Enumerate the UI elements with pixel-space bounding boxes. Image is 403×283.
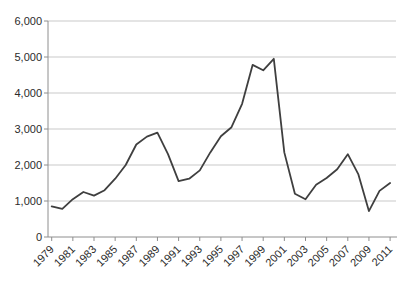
y-axis-label: 3,000 <box>14 123 42 135</box>
y-axis-label: 6,000 <box>14 15 42 27</box>
x-axis-label: 1981 <box>51 243 77 269</box>
y-axis-label: 4,000 <box>14 87 42 99</box>
y-axis-label: 2,000 <box>14 159 42 171</box>
x-axis-label: 2001 <box>263 243 289 269</box>
x-axis-label: 1989 <box>136 243 162 269</box>
x-axis-label: 2011 <box>369 243 394 268</box>
x-axis-label: 1979 <box>30 243 56 269</box>
x-axis-label: 2003 <box>284 243 310 269</box>
x-axis-label: 1991 <box>157 243 183 269</box>
line-chart: 01,0002,0003,0004,0005,0006,000197919811… <box>0 0 403 283</box>
chart-screenshot: 01,0002,0003,0004,0005,0006,000197919811… <box>0 0 403 283</box>
y-axis-label: 1,000 <box>14 195 42 207</box>
x-axis-label: 2005 <box>305 243 331 269</box>
y-axis-label: 0 <box>36 231 42 243</box>
x-axis-label: 1983 <box>73 243 99 269</box>
y-axis-label: 5,000 <box>14 51 42 63</box>
x-axis-label: 1993 <box>178 243 204 269</box>
x-axis-label: 1999 <box>242 243 268 269</box>
x-axis-label: 2009 <box>348 243 374 269</box>
x-axis-label: 1987 <box>115 243 141 269</box>
x-axis-label: 1997 <box>221 243 247 269</box>
x-axis-label: 1985 <box>94 243 120 269</box>
x-axis-label: 2007 <box>326 243 352 269</box>
data-line <box>52 59 390 211</box>
line-chart-figure: 01,0002,0003,0004,0005,0006,000197919811… <box>0 0 403 283</box>
x-axis-label: 1995 <box>200 243 226 269</box>
